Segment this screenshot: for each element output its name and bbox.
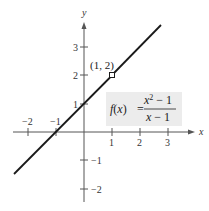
x-tick-label: −1 <box>50 116 61 127</box>
y-tick-label: 3 <box>73 42 78 53</box>
function-graph: x y −2 −1 1 2 3 3 2 1 −1 −2 (1, 2) f(x) … <box>0 0 209 211</box>
svg-text:=: = <box>137 102 144 116</box>
y-tick-label: 1 <box>73 99 78 110</box>
y-tick-label: −2 <box>91 184 102 195</box>
x-tick-label: −2 <box>22 116 33 127</box>
y-axis-label: y <box>81 7 87 18</box>
svg-text:x − 1: x − 1 <box>145 110 170 124</box>
function-line <box>114 25 161 73</box>
open-point-marker <box>110 73 115 78</box>
point-label: (1, 2) <box>90 59 114 72</box>
y-tick-label: −1 <box>91 155 102 166</box>
x-axis-arrow-icon <box>188 130 195 135</box>
x-tick-label: 1 <box>109 137 114 148</box>
x-axis-label: x <box>198 126 204 137</box>
y-axis-arrow-icon <box>82 22 87 29</box>
y-tick-label: 2 <box>73 70 78 81</box>
x-tick-label: 2 <box>137 137 142 148</box>
x-tick-label: 3 <box>165 137 170 148</box>
svg-text:f(x): f(x) <box>110 102 127 116</box>
svg-text:x2 − 1: x2 − 1 <box>143 93 172 107</box>
